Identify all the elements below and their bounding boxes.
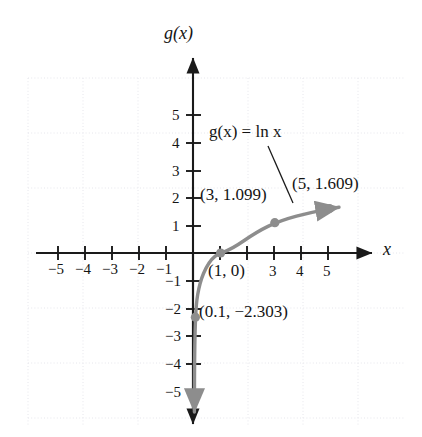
y-axis-label: g(x): [164, 24, 193, 42]
data-point-marker: [325, 204, 334, 213]
y-tick-label-neg-3: −3: [165, 329, 181, 344]
x-axis-label: x: [383, 240, 391, 258]
plot-canvas: [0, 0, 422, 437]
x-tick-label-3: 3: [269, 264, 277, 279]
x-tick-label-neg-4: −4: [75, 262, 91, 277]
x-tick-label-neg-5: −5: [48, 262, 64, 277]
y-tick-label-1: 1: [172, 219, 180, 234]
data-point-marker: [216, 248, 225, 257]
point-label-0-1: (0.1, −2.303): [199, 303, 288, 320]
x-tick-label-neg-1: −1: [156, 262, 172, 277]
function-equation-label: g(x) = ln x: [209, 123, 281, 140]
y-tick-label-4: 4: [172, 136, 180, 151]
point-label-1: (1, 0): [208, 262, 245, 279]
y-tick-label-5: 5: [172, 108, 180, 123]
y-tick-label-neg-2: −2: [165, 302, 181, 317]
data-point-marker: [270, 218, 279, 227]
x-tick-label-5: 5: [323, 264, 331, 279]
logarithm-graph-figure: g(x) x g(x) = ln x (3, 1.099) (5, 1.609)…: [0, 0, 422, 437]
y-tick-label-2: 2: [172, 191, 180, 206]
ln-curve-asymptote: [194, 320, 195, 413]
y-tick-label-neg-5: −5: [165, 385, 181, 400]
x-tick-label-4: 4: [296, 264, 304, 279]
y-tick-label-neg-4: −4: [165, 357, 181, 372]
function-label-leader-line: [268, 146, 293, 203]
x-tick-label-neg-2: −2: [129, 262, 145, 277]
point-label-5: (5, 1.609): [292, 175, 359, 192]
point-label-3: (3, 1.099): [200, 186, 267, 203]
axes: [36, 58, 372, 424]
y-tick-label-3: 3: [172, 164, 180, 179]
x-tick-label-neg-3: −3: [102, 262, 118, 277]
